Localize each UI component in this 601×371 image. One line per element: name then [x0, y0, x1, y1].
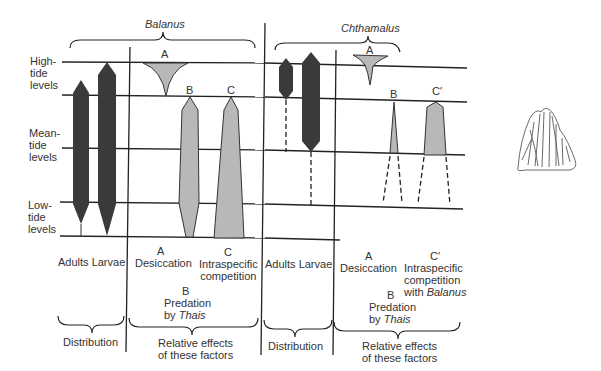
mean-tide-label: Mean-tidelevels [29, 127, 60, 163]
balanus-title: Balanus [145, 18, 185, 30]
balanus-desiccation-label: Desiccation [135, 257, 192, 269]
barnacle-illustration [518, 108, 576, 170]
high-tide-label: High-tidelevels [30, 55, 58, 91]
balanus-distribution-label: Distribution [63, 336, 118, 348]
balanus-a-marker: A [161, 48, 168, 60]
chthamalus-distribution-bars [279, 52, 320, 206]
balanus-competition-shape [214, 97, 244, 238]
chthamalus-dashed-extensions [383, 156, 450, 205]
balanus-distribution-brace [58, 316, 124, 333]
chthamalus-b-marker: B [390, 88, 397, 100]
balanus-predation-shape [179, 97, 199, 237]
balanus-effects-label: Relative effectsof these factors [158, 337, 233, 361]
balanus-predation-label: Predation by Thais [164, 297, 211, 321]
low-tide-label: Low-tidelevels [28, 199, 56, 235]
chthamalus-competition-label: Intraspecific competition with Balanus [404, 262, 466, 298]
chthamalus-effects-label: Relative effectsof these factors [362, 340, 437, 364]
chthamalus-factor-shapes [353, 55, 446, 155]
chthamalus-title: Chthamalus [341, 22, 400, 34]
chthamalus-distribution-cols: Adults Larvae [265, 258, 332, 270]
chthamalus-predation-shape [390, 102, 398, 153]
chthamalus-b-letter: B [387, 289, 394, 301]
chthamalus-c-marker: C′ [432, 85, 442, 97]
balanus-desiccation-shape [143, 63, 188, 96]
balanus-distribution-cols: Adults Larvae [58, 256, 125, 268]
balanus-larvae-bar [98, 62, 116, 236]
chthamalus-c-letter: C′ [430, 250, 440, 262]
balanus-b-letter: B [182, 285, 189, 297]
balanus-c-marker: C [227, 84, 235, 96]
balanus-distribution-bars [73, 62, 116, 236]
chthamalus-desiccation-label: Desiccation [340, 262, 397, 274]
species-braces [70, 32, 400, 52]
balanus-c-letter: C [224, 246, 232, 258]
chthamalus-distribution-label: Distribution [268, 340, 323, 352]
chthamalus-larvae-bar [302, 52, 320, 152]
chthamalus-a-marker: A [366, 44, 373, 56]
chthamalus-adults-bar [279, 58, 293, 100]
chthamalus-a-letter: A [365, 250, 372, 262]
balanus-brace [70, 32, 255, 48]
zonation-diagram [0, 0, 601, 371]
balanus-b-marker: B [186, 84, 193, 96]
chthamalus-distribution-brace [264, 320, 332, 337]
chthamalus-desiccation-shape [353, 55, 388, 85]
balanus-a-letter: A [157, 245, 164, 257]
chthamalus-competition-shape [424, 102, 446, 155]
chthamalus-predation-label: Predation by Thais [369, 301, 416, 325]
chthamalus-brace [275, 36, 400, 52]
balanus-adults-bar [73, 80, 89, 224]
balanus-competition-label: Intraspecificcompetition [199, 258, 258, 282]
